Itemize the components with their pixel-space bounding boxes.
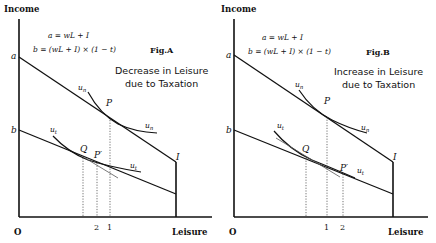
point-q-label: Q xyxy=(302,144,310,154)
post-tax-budget-line xyxy=(234,130,393,194)
caption-line-1: Increase in Leisure xyxy=(334,66,423,77)
figure-label: Fig.A xyxy=(150,45,174,55)
un-right-label: un xyxy=(145,121,154,131)
equation-a: a = wL + I xyxy=(48,31,90,40)
point-p-prime-label: P′ xyxy=(339,163,348,173)
y-axis-label: Income xyxy=(221,4,257,14)
tick-label-2: 2 xyxy=(94,223,99,232)
point-b-label: b xyxy=(226,125,232,135)
point-i-label: I xyxy=(392,152,397,162)
ut-right-label: ut xyxy=(357,166,365,176)
caption-line-2: due to Taxation xyxy=(342,79,415,90)
x-axis-label: Leisure xyxy=(172,227,208,237)
x-axis-label: Leisure xyxy=(388,227,424,237)
origin-label: O xyxy=(229,227,237,237)
point-i-label: I xyxy=(175,152,180,162)
point-p-label: P xyxy=(105,98,113,108)
post-tax-budget-line xyxy=(19,130,176,194)
point-b-label: b xyxy=(11,125,17,135)
taxation-leisure-diagram: Income O Leisure a = wL + I b = (wL + I)… xyxy=(0,0,436,243)
panel-fig-b: Income O Leisure a = wL + I b = (wL + I)… xyxy=(221,4,428,237)
equation-a: a = wL + I xyxy=(262,33,304,42)
point-a-label: a xyxy=(226,50,231,60)
un-top-label: un xyxy=(78,83,87,93)
tick-label-1: 1 xyxy=(107,223,112,232)
un-top-label: un xyxy=(295,80,304,90)
figure-label: Fig.B xyxy=(366,47,390,57)
un-right-label: un xyxy=(361,123,370,133)
point-p-prime-label: P′ xyxy=(93,150,102,160)
origin-label: O xyxy=(14,227,22,237)
equation-b: b = (wL + I) × (1 − t) xyxy=(33,45,116,54)
tick-label-2: 2 xyxy=(340,223,345,232)
tick-label-1: 1 xyxy=(324,223,329,232)
ut-left-label: ut xyxy=(50,125,58,135)
caption-line-2: due to Taxation xyxy=(125,78,198,89)
indifference-curve-un xyxy=(299,90,367,133)
point-q-label: Q xyxy=(80,144,88,154)
ut-left-label: ut xyxy=(277,121,285,131)
panel-fig-a: Income O Leisure a = wL + I b = (wL + I)… xyxy=(4,4,212,237)
ut-right-label: ut xyxy=(130,161,138,171)
point-p-label: P xyxy=(323,96,331,106)
caption-line-1: Decrease in Leisure xyxy=(115,65,209,76)
y-axis-label: Income xyxy=(4,4,40,14)
equation-b: b = (wL + I) × (1 − t) xyxy=(248,47,331,56)
point-a-label: a xyxy=(11,51,16,61)
